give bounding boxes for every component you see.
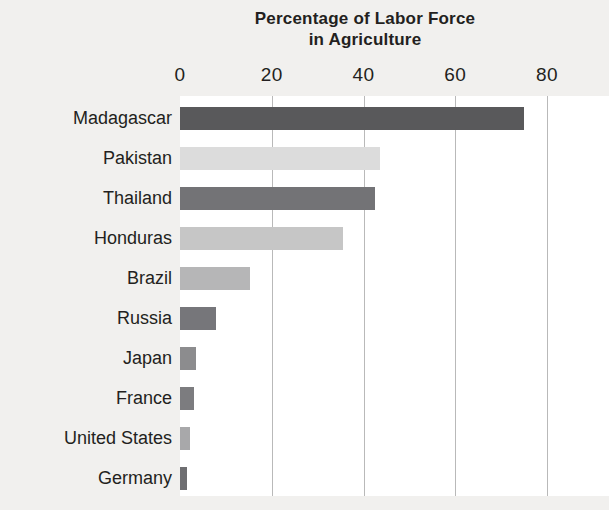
bar-pakistan (180, 147, 380, 170)
bar-brazil (180, 267, 250, 290)
bar-row: Honduras (0, 218, 609, 258)
category-label-russia: Russia (0, 298, 172, 338)
category-label-madagascar: Madagascar (0, 98, 172, 138)
category-label-pakistan: Pakistan (0, 138, 172, 178)
bar-france (180, 387, 194, 410)
x-tick-label-40: 40 (334, 64, 394, 86)
category-label-france: France (0, 378, 172, 418)
x-tick-label-0: 0 (150, 64, 210, 86)
category-label-united-states: United States (0, 418, 172, 458)
bar-chart-figure: Percentage of Labor Force in Agriculture… (0, 0, 609, 510)
bar-japan (180, 347, 196, 370)
x-tick-label-20: 20 (242, 64, 302, 86)
bar-row: Pakistan (0, 138, 609, 178)
x-axis-tick-labels: 020406080 (0, 64, 609, 90)
chart-title-line-1: Percentage of Labor Force (180, 8, 550, 29)
bar-row: Japan (0, 338, 609, 378)
bar-madagascar (180, 107, 524, 130)
bar-row: Brazil (0, 258, 609, 298)
chart-title: Percentage of Labor Force in Agriculture (180, 8, 550, 50)
bar-germany (180, 467, 187, 490)
x-tick-label-60: 60 (425, 64, 485, 86)
category-label-thailand: Thailand (0, 178, 172, 218)
bar-row: United States (0, 418, 609, 458)
category-label-brazil: Brazil (0, 258, 172, 298)
category-label-germany: Germany (0, 458, 172, 498)
bar-honduras (180, 227, 343, 250)
bar-row: Russia (0, 298, 609, 338)
bar-row: France (0, 378, 609, 418)
bar-russia (180, 307, 216, 330)
bar-row: Madagascar (0, 98, 609, 138)
bar-row: Germany (0, 458, 609, 498)
bar-united-states (180, 427, 190, 450)
bar-row: Thailand (0, 178, 609, 218)
chart-title-line-2: in Agriculture (180, 29, 550, 50)
bar-thailand (180, 187, 375, 210)
category-label-japan: Japan (0, 338, 172, 378)
x-tick-label-80: 80 (517, 64, 577, 86)
category-label-honduras: Honduras (0, 218, 172, 258)
